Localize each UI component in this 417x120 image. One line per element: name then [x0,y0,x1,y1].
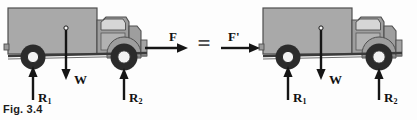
force-label-R2: R2 [384,91,397,106]
force-arrow-F [145,43,188,53]
force-label-W: W [329,73,342,86]
cargo-box [8,8,97,54]
rear-bumper [259,44,264,50]
front-wheel [366,44,393,71]
rear-wheel [276,45,301,70]
force-arrow-R1 [283,66,292,100]
force-label-R1: R1 [293,91,306,106]
right-truck-illustration [211,0,407,120]
front-wheel [111,44,138,71]
centre-of-gravity-marker [319,26,323,30]
force-label-F: F [169,30,177,43]
cargo-box [263,8,352,54]
force-label-F-prime: F' [228,30,240,43]
force-arrow-F-prime [221,43,260,53]
force-arrow-R1 [28,66,37,100]
cab-window [356,19,381,30]
cab-window [101,19,126,30]
force-arrow-R2 [119,68,128,100]
figure-caption: Fig. 3.4 [3,103,43,115]
rear-bumper [4,44,9,50]
force-label-W: W [74,73,87,86]
right-force-diagram: F' W R1 R2 [211,0,407,120]
figure-3-4: F W R1 R2 = [0,0,417,120]
force-arrow-R2 [374,68,383,100]
centre-of-gravity-marker [64,26,68,30]
left-force-diagram: F W R1 R2 [2,0,198,120]
rear-wheel [21,45,46,70]
force-label-R2: R2 [129,91,142,106]
left-truck-illustration [2,0,198,120]
